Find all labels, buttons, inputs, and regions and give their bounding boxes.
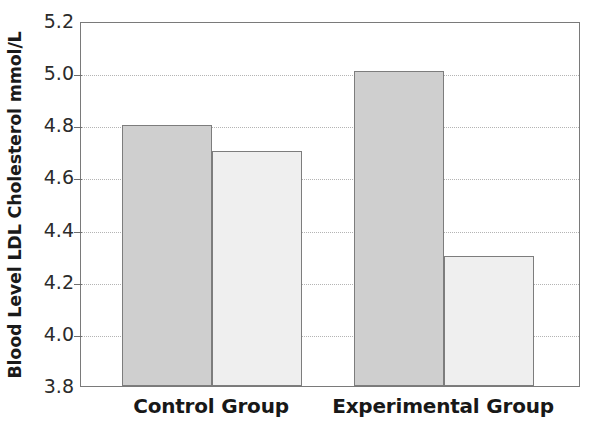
tick-mark	[74, 336, 82, 337]
y-tick-label: 5.0	[28, 64, 74, 83]
bar	[444, 256, 534, 386]
tick-mark	[74, 284, 82, 285]
tick-mark	[74, 75, 82, 76]
y-tick-label: 4.4	[28, 221, 74, 240]
tick-mark	[74, 127, 82, 128]
bar	[122, 125, 212, 386]
y-tick-label: 4.6	[28, 168, 74, 187]
bar	[354, 71, 444, 386]
y-tick-label: 4.0	[28, 325, 74, 344]
y-tick-label: 5.2	[28, 12, 74, 31]
bar	[212, 151, 302, 386]
x-category-label: Experimental Group	[323, 394, 563, 418]
tick-mark	[74, 232, 82, 233]
bar-chart: Blood Level LDL Cholesterol mmol/L 5.25.…	[0, 0, 591, 435]
y-tick-label: 4.8	[28, 116, 74, 135]
gridline	[81, 75, 579, 76]
tick-mark	[74, 179, 82, 180]
plot-area	[80, 22, 580, 387]
y-tick-label: 4.2	[28, 273, 74, 292]
y-tick-label: 3.8	[28, 377, 74, 396]
x-category-label: Control Group	[91, 394, 331, 418]
